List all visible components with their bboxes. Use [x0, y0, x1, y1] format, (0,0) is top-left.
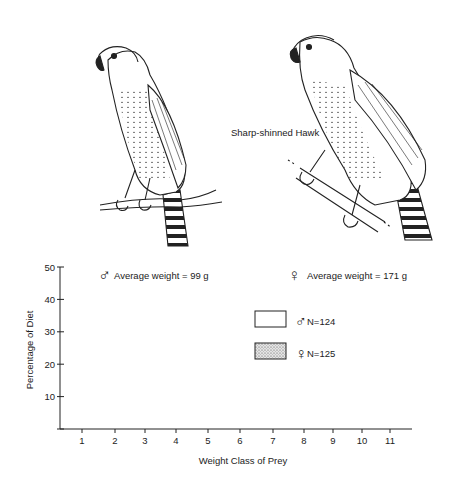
legend-male-label: N=124: [307, 316, 335, 327]
female-symbol: ♀: [288, 266, 301, 285]
hawk-illustrations: Sharp-shinned Hawk: [0, 0, 473, 255]
male-symbol: ♂: [98, 266, 111, 285]
y-tick-label: 40: [44, 294, 55, 305]
legend-female-label: N=125: [307, 348, 335, 359]
x-tick-label: 1: [79, 435, 84, 446]
male-average-caption: Average weight = 99 g: [114, 270, 209, 281]
y-axis: 1020304050: [44, 262, 64, 430]
diet-bar-chart: 1020304050 1234567891011 ♂ Average weigh…: [0, 250, 473, 492]
legend-male-swatch: [255, 311, 286, 327]
x-axis: 1234567891011: [60, 429, 412, 446]
y-tick-label: 50: [44, 262, 55, 273]
y-tick-label: 10: [44, 391, 55, 402]
legend-male-symbol: ♂: [295, 313, 307, 330]
species-label: Sharp-shinned Hawk: [231, 127, 319, 138]
x-tick-label: 9: [330, 435, 335, 446]
x-tick-label: 2: [112, 435, 117, 446]
y-tick-label: 20: [44, 359, 55, 370]
x-tick-label: 3: [142, 435, 147, 446]
legend-female-swatch: [255, 343, 286, 359]
x-tick-label: 5: [205, 435, 210, 446]
x-tick-label: 4: [173, 435, 178, 446]
x-axis-title: Weight Class of Prey: [199, 455, 288, 466]
x-tick-label: 7: [270, 435, 275, 446]
x-tick-label: 8: [301, 435, 306, 446]
y-tick-label: 30: [44, 326, 55, 337]
x-tick-label: 6: [237, 435, 242, 446]
x-tick-label: 11: [385, 435, 395, 446]
female-average-caption: Average weight = 171 g: [307, 270, 407, 281]
male-hawk-drawing: [96, 47, 222, 246]
x-tick-label: 10: [357, 435, 368, 446]
legend-female-symbol: ♀: [295, 345, 307, 362]
y-axis-title: Percentage of Diet: [24, 310, 35, 389]
legend: ♂ N=124 ♀ N=125: [255, 311, 335, 362]
